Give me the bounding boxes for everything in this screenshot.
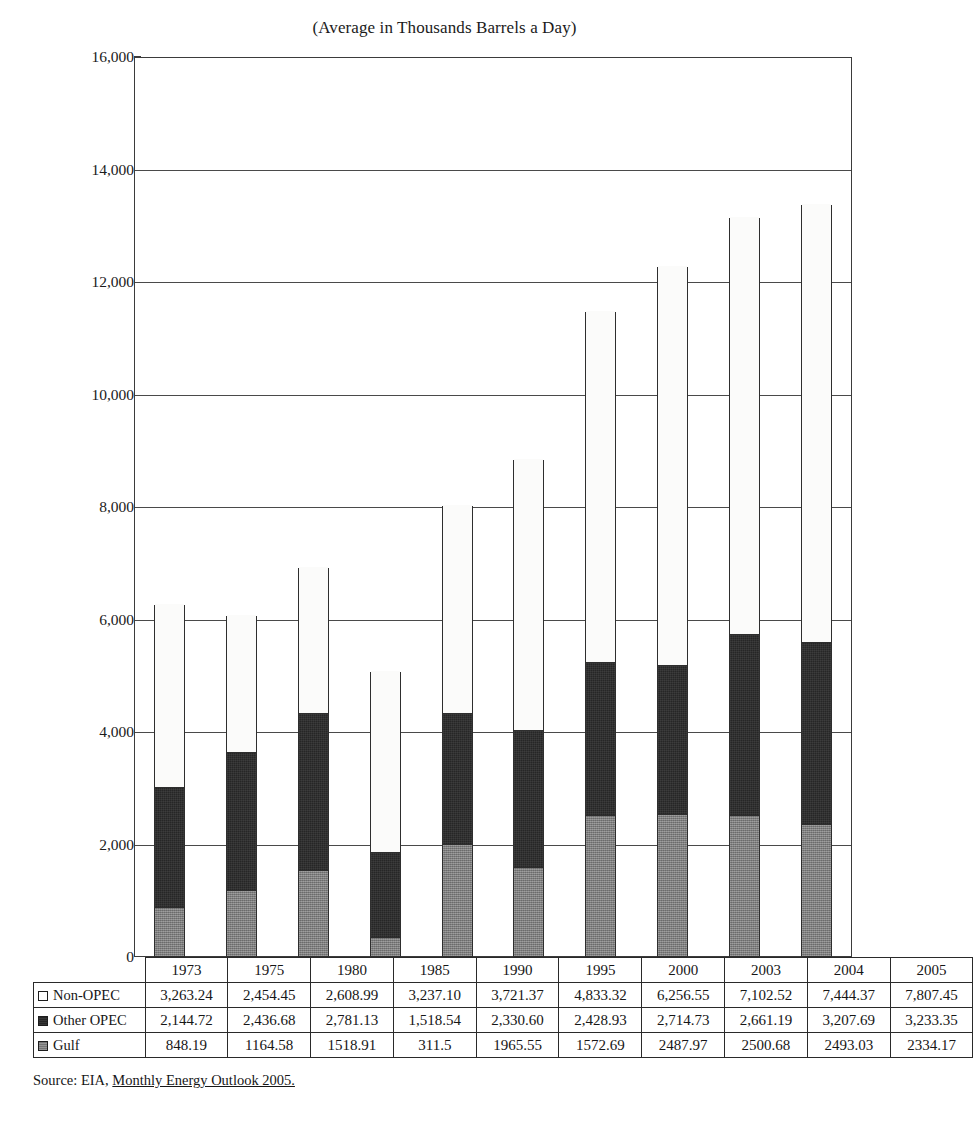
- table-cell-value: 2,436.68: [228, 1008, 311, 1033]
- table-column-header-year: 2003: [725, 958, 808, 983]
- legend-label: Other OPEC: [53, 1012, 127, 1028]
- y-axis-tick-label: 12,000: [60, 273, 134, 291]
- chart-title: (Average in Thousands Barrels a Day): [0, 18, 889, 38]
- gridline: [135, 620, 851, 621]
- table-cell-value: 2,454.45: [228, 983, 311, 1008]
- table-cell-value: 2493.03: [807, 1033, 890, 1058]
- table-cell-value: 1164.58: [228, 1033, 311, 1058]
- table-column-header-year: 2005: [890, 958, 973, 983]
- table-cell-value: 3,207.69: [807, 1008, 890, 1033]
- table-cell-value: 2,608.99: [311, 983, 394, 1008]
- table-cell-value: 3,263.24: [145, 983, 228, 1008]
- y-axis: 02,0004,0006,0008,00010,00012,00014,0001…: [46, 57, 134, 957]
- table-corner-cell: [34, 958, 146, 983]
- table-row: Non-OPEC3,263.242,454.452,608.993,237.10…: [34, 983, 973, 1008]
- gridline: [135, 732, 851, 733]
- legend-label: Gulf: [53, 1037, 80, 1053]
- table-column-header-year: 1975: [228, 958, 311, 983]
- legend-label: Non-OPEC: [53, 987, 120, 1003]
- y-axis-tick-label: 16,000: [60, 48, 134, 66]
- gridline: [135, 395, 851, 396]
- gridline: [135, 282, 851, 283]
- table-column-header-year: 1973: [145, 958, 228, 983]
- y-axis-tick-label: 10,000: [60, 386, 134, 404]
- table-cell-value: 1518.91: [311, 1033, 394, 1058]
- table-cell-value: 2,144.72: [145, 1008, 228, 1033]
- source-prefix: Source: EIA,: [33, 1072, 112, 1088]
- table-header-row: 1973197519801985199019952000200320042005: [34, 958, 973, 983]
- table-column-header-year: 1980: [311, 958, 394, 983]
- table-cell-value: 4,833.32: [559, 983, 642, 1008]
- y-axis-tick-label: 6,000: [60, 611, 134, 629]
- legend-swatch-icon: [38, 991, 48, 1001]
- table-cell-value: 7,444.37: [807, 983, 890, 1008]
- table-body: Non-OPEC3,263.242,454.452,608.993,237.10…: [34, 983, 973, 1058]
- legend-entry: Gulf: [34, 1033, 146, 1058]
- table-cell-value: 1965.55: [476, 1033, 559, 1058]
- table-cell-value: 2487.97: [642, 1033, 725, 1058]
- table-column-header-year: 2000: [642, 958, 725, 983]
- legend-swatch-icon: [38, 1016, 48, 1026]
- table-row: Gulf848.191164.581518.91311.51965.551572…: [34, 1033, 973, 1058]
- table-cell-value: 2,330.60: [476, 1008, 559, 1033]
- gridline: [135, 170, 851, 171]
- table-cell-value: 2500.68: [725, 1033, 808, 1058]
- legend-swatch-icon: [38, 1041, 48, 1051]
- table-column-header-year: 1985: [393, 958, 476, 983]
- table-cell-value: 2,428.93: [559, 1008, 642, 1033]
- table-cell-value: 2,661.19: [725, 1008, 808, 1033]
- table-column-header-year: 1990: [476, 958, 559, 983]
- table-cell-value: 2,781.13: [311, 1008, 394, 1033]
- y-axis-tick-label: 8,000: [60, 498, 134, 516]
- legend-entry: Other OPEC: [34, 1008, 146, 1033]
- y-axis-tick-label: 14,000: [60, 161, 134, 179]
- table-cell-value: 3,233.35: [890, 1008, 973, 1033]
- table-cell-value: 7,807.45: [890, 983, 973, 1008]
- table-cell-value: 3,237.10: [393, 983, 476, 1008]
- table-cell-value: 2334.17: [890, 1033, 973, 1058]
- plot-area: [134, 57, 852, 957]
- table-column-header-year: 1995: [559, 958, 642, 983]
- table-cell-value: 1,518.54: [393, 1008, 476, 1033]
- table-cell-value: 1572.69: [559, 1033, 642, 1058]
- table-column-header-year: 2004: [807, 958, 890, 983]
- table-cell-value: 7,102.52: [725, 983, 808, 1008]
- table-row: Other OPEC2,144.722,436.682,781.131,518.…: [34, 1008, 973, 1033]
- y-axis-tick-label: 2,000: [60, 836, 134, 854]
- data-table: 1973197519801985199019952000200320042005…: [33, 957, 973, 1058]
- table-cell-value: 2,714.73: [642, 1008, 725, 1033]
- source-note: Source: EIA, Monthly Energy Outlook 2005…: [33, 1072, 295, 1089]
- gridline: [135, 845, 851, 846]
- table-cell-value: 848.19: [145, 1033, 228, 1058]
- table-cell-value: 3,721.37: [476, 983, 559, 1008]
- table-cell-value: 311.5: [393, 1033, 476, 1058]
- legend-entry: Non-OPEC: [34, 983, 146, 1008]
- gridline: [135, 507, 851, 508]
- source-document-title: Monthly Energy Outlook 2005.: [112, 1072, 295, 1088]
- y-axis-tick-label: 4,000: [60, 723, 134, 741]
- table-cell-value: 6,256.55: [642, 983, 725, 1008]
